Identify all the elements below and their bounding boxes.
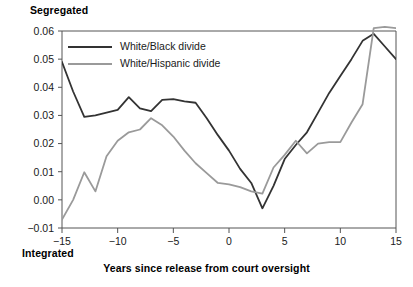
x-axis-ticks: −15−10−5051015 [53,228,402,247]
y-tick-label: 0.01 [34,166,55,178]
legend-label: White/Black divide [120,40,206,52]
y-tick-label: 0.06 [34,25,55,37]
series-line [62,34,396,208]
axes [62,31,396,228]
x-tick-label: 10 [334,235,346,247]
chart-figure: Segregated Integrated Years since releas… [0,0,413,287]
x-tick-label: −10 [109,235,127,247]
y-axis-ticks: −0.010.000.010.020.030.040.050.06 [27,25,62,234]
y-tick-label: 0.03 [34,109,55,121]
x-tick-label: 15 [390,235,402,247]
x-tick-label: 0 [226,235,232,247]
x-tick-label: −5 [167,235,179,247]
chart-legend: White/Black divideWhite/Hispanic divide [68,40,221,69]
y-tick-label: 0.00 [34,194,55,206]
y-tick-label: 0.05 [34,53,55,65]
series-line [62,27,396,220]
y-tick-label: 0.04 [34,81,55,93]
x-tick-label: 5 [282,235,288,247]
y-tick-label: 0.02 [34,137,55,149]
legend-label: White/Hispanic divide [120,57,221,69]
data-series [62,27,396,220]
y-tick-label: −0.01 [27,222,54,234]
plot-area: −0.010.000.010.020.030.040.050.06 −15−10… [0,0,413,287]
x-tick-label: −15 [53,235,71,247]
